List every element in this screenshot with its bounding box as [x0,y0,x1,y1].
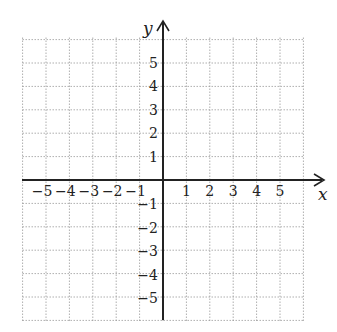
y-tick-label: 1 [149,149,158,165]
y-tick-label: −1 [137,196,158,212]
y-tick-label: −2 [137,220,158,236]
y-tick-label: 2 [149,125,158,141]
x-tick-label: 3 [229,183,238,199]
x-tick-label: 2 [205,183,214,199]
x-tick-label: 1 [182,183,191,199]
x-axis-label: x [318,184,328,204]
x-tick-labels: −5−4−3−2−112345 [32,183,285,199]
x-tick-label: 4 [252,183,261,199]
x-tick-label: −2 [102,183,123,199]
y-tick-label: −5 [137,290,158,306]
x-tick-label: −4 [55,183,76,199]
y-tick-label: −4 [137,267,158,283]
y-tick-label: 4 [149,78,158,94]
y-tick-label: 3 [149,102,158,118]
y-tick-label: 5 [149,55,158,71]
x-tick-label: −5 [32,183,53,199]
coordinate-plane: x y −5−4−3−2−112345 54321−1−2−3−4−5 [0,0,337,332]
x-tick-label: −3 [78,183,99,199]
x-tick-label: 5 [276,183,285,199]
y-axis-label: y [142,18,153,38]
y-tick-label: −3 [137,243,158,259]
